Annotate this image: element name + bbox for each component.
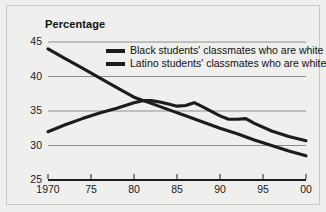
y-axis-tick-label: 35 [20,104,42,116]
x-axis-tick-label: 1970 [36,183,59,195]
x-axis-tick-label: 85 [171,183,183,195]
x-axis-tick-label: 75 [85,183,97,195]
chart-legend: Black students' classmates who are white… [106,44,326,70]
legend-label-latino-students: Latino students' classmates who are whit… [130,57,326,70]
y-axis-tick-label: 40 [20,70,42,82]
y-axis-tick-label: 45 [20,35,42,47]
legend-swatch-black-students [106,49,125,53]
line-chart-plot [0,0,326,212]
legend-item-latino-students: Latino students' classmates who are whit… [106,57,326,70]
legend-item-black-students: Black students' classmates who are white [106,44,326,57]
x-axis-tick-label: 95 [257,183,269,195]
x-axis-tick-label: 80 [128,183,140,195]
x-axis-tick-label: 00 [300,183,312,195]
legend-label-black-students: Black students' classmates who are white [130,44,323,57]
x-axis-tick-label: 90 [214,183,226,195]
legend-swatch-latino-students [106,62,125,66]
data-line-series-1 [48,101,306,141]
y-axis-tick-label: 30 [20,139,42,151]
chart-figure: Percentage Black students' classmates wh… [0,0,326,212]
